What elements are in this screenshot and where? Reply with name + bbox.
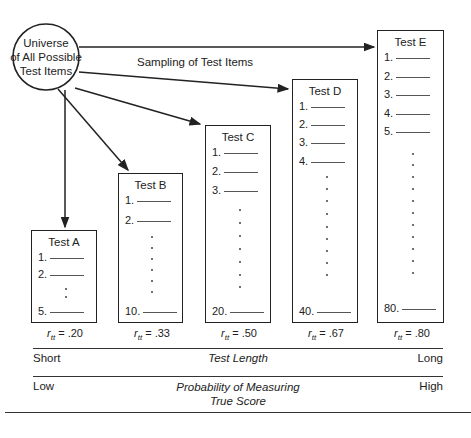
- test-length-label: Test Length: [163, 352, 313, 364]
- test-e-item-3: 3.: [384, 88, 430, 100]
- test-e-title: Test E: [378, 36, 443, 48]
- test-b-item-last: 10.: [125, 305, 177, 317]
- test-e-item-last: 80.: [384, 302, 436, 314]
- test-e-item-4: 4.: [384, 107, 430, 119]
- test-e-item-1: 1.: [384, 51, 430, 63]
- test-d-item-last: 40.: [299, 305, 351, 317]
- test-e-box: Test E 1. 2. 3. 4. 5. 80.: [377, 30, 444, 323]
- probability-label: Probability of Measuring True Score: [163, 380, 313, 408]
- test-b-reliability: rtt = .33: [134, 327, 170, 342]
- test-b-item-1: 1.: [125, 194, 171, 206]
- test-a-item-1: 1.: [38, 251, 84, 263]
- test-a-reliability: rtt = .20: [47, 327, 83, 342]
- test-b-item-2: 2.: [125, 214, 171, 226]
- low-label: Low: [33, 380, 54, 392]
- test-d-item-4: 4.: [299, 155, 345, 167]
- test-e-reliability: rtt = .80: [394, 327, 430, 342]
- universe-line3: Test Items: [6, 64, 86, 78]
- bottom-rule: [5, 412, 471, 413]
- long-label: Long: [413, 352, 443, 364]
- test-d-reliability: rtt = .67: [308, 327, 344, 342]
- test-d-title: Test D: [293, 85, 357, 97]
- arrow-to-test-d: [79, 72, 288, 89]
- test-e-item-2: 2.: [384, 70, 430, 82]
- test-d-item-3: 3.: [299, 136, 345, 148]
- test-b-title: Test B: [119, 179, 182, 191]
- universe-label: Universe of All Possible Test Items: [6, 36, 86, 78]
- test-b-box: Test B 1. 2. 10.: [118, 173, 183, 323]
- test-a-title: Test A: [32, 236, 96, 248]
- test-a-item-last: 5.: [38, 305, 84, 317]
- test-d-item-1: 1.: [299, 100, 345, 112]
- test-c-box: Test C 1. 2. 3. 20.: [205, 125, 271, 323]
- high-label: High: [413, 380, 443, 392]
- test-c-item-3: 3.: [212, 184, 258, 196]
- test-c-item-2: 2.: [212, 165, 258, 177]
- arrow-to-test-b: [58, 89, 128, 170]
- test-a-item-2: 2.: [38, 268, 84, 280]
- test-length-rule: [33, 348, 443, 349]
- test-c-reliability: rtt = .50: [221, 327, 257, 342]
- test-a-box: Test A 1. 2. 5.: [31, 230, 97, 323]
- test-c-item-last: 20.: [212, 305, 264, 317]
- test-c-item-1: 1.: [212, 146, 258, 158]
- universe-line2: of All Possible: [6, 50, 86, 64]
- universe-line1: Universe: [6, 36, 86, 50]
- probability-rule: [33, 376, 443, 377]
- test-c-title: Test C: [206, 131, 270, 143]
- test-d-box: Test D 1. 2. 3. 4. 40.: [292, 79, 358, 323]
- arrow-to-test-c: [75, 88, 200, 124]
- sampling-label: Sampling of Test Items: [137, 56, 253, 68]
- test-e-item-5: 5.: [384, 125, 430, 137]
- test-d-item-2: 2.: [299, 118, 345, 130]
- short-label: Short: [33, 352, 61, 364]
